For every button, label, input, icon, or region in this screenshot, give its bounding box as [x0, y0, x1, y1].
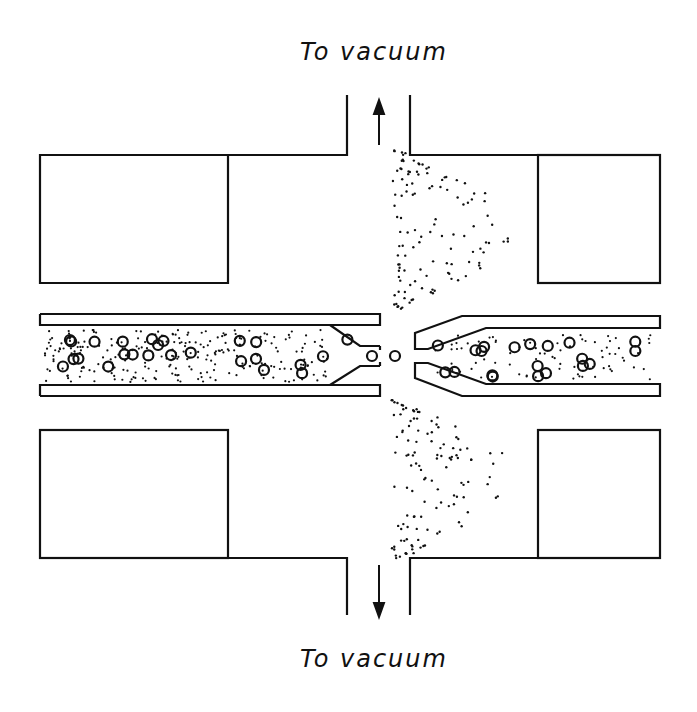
- block-bottom-right: [538, 430, 660, 558]
- particle-field: [44, 149, 651, 559]
- bottom-port-duct: [228, 558, 347, 615]
- top-port-left-wall: [40, 155, 228, 283]
- block-bottom-left: [40, 430, 228, 558]
- block-top-right: [538, 155, 660, 283]
- left-capillary-bottom-wall: [40, 366, 380, 396]
- up-arrow-icon: [374, 100, 384, 114]
- jet-separator-diagram: [0, 0, 697, 712]
- top-port-duct: [228, 95, 347, 155]
- down-arrow-icon: [374, 603, 384, 617]
